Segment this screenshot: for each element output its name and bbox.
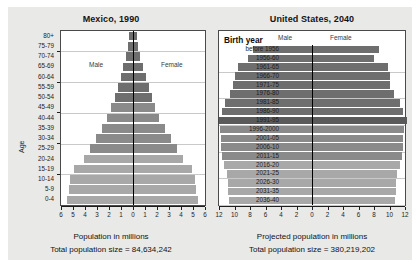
x-tick-mark bbox=[61, 207, 62, 210]
bar-male bbox=[96, 134, 133, 143]
x-tick-mark bbox=[297, 207, 298, 210]
bar-female bbox=[133, 124, 165, 133]
bar-female bbox=[312, 63, 388, 70]
x-tick-mark bbox=[235, 207, 236, 210]
x-tick-mark bbox=[405, 207, 406, 210]
bar-female bbox=[312, 55, 374, 62]
x-tick-label: 4 bbox=[336, 211, 350, 218]
bar-female bbox=[312, 90, 394, 97]
y-tick-label: 60-64 bbox=[10, 74, 54, 80]
bar-male bbox=[102, 124, 133, 133]
bar-female bbox=[312, 197, 395, 204]
bar-female bbox=[312, 188, 396, 195]
x-tick-label: 6 bbox=[352, 211, 366, 218]
y-tick-mark bbox=[57, 51, 60, 52]
y-tick-label: 80+ bbox=[10, 33, 54, 39]
bar-female bbox=[312, 143, 403, 150]
y-tick-label: 25-29 bbox=[10, 145, 54, 151]
y-tick-label: 2021-25 bbox=[217, 170, 279, 176]
y-tick-label: 1956-60 bbox=[217, 55, 279, 61]
y-tick-label: 35-39 bbox=[10, 125, 54, 131]
bar-female bbox=[312, 179, 396, 186]
y-tick-mark bbox=[57, 112, 60, 113]
x-tick-mark bbox=[157, 207, 158, 210]
bar-male bbox=[123, 63, 133, 72]
axis-label-birth-year: Birth year bbox=[224, 35, 263, 45]
chart-united-states-2040: United States, 2040 MaleFemale Birth yea… bbox=[212, 7, 412, 260]
y-tick-label: 1971-75 bbox=[217, 82, 279, 88]
legend-male: Male bbox=[278, 34, 292, 41]
center-axis-line bbox=[133, 31, 134, 205]
x-tick-mark bbox=[250, 207, 251, 210]
bar-female bbox=[312, 152, 402, 159]
bar-female bbox=[133, 165, 192, 174]
y-tick-label: 55-59 bbox=[10, 84, 54, 90]
x-tick-mark bbox=[121, 207, 122, 210]
chart-title-mexico: Mexico, 1990 bbox=[12, 14, 210, 24]
y-tick-label: 2001-05 bbox=[217, 135, 279, 141]
y-tick-label: 50-54 bbox=[10, 94, 54, 100]
bar-female bbox=[312, 170, 397, 177]
bar-female bbox=[133, 93, 152, 102]
x-tick-label: 8 bbox=[367, 211, 381, 218]
bar-female bbox=[133, 103, 155, 112]
x-tick-label: 4 bbox=[274, 211, 288, 218]
bar-female bbox=[133, 175, 195, 184]
x-tick-mark bbox=[266, 207, 267, 210]
y-tick-label: 2006-10 bbox=[217, 144, 279, 150]
bar-male bbox=[69, 185, 133, 194]
bar-female bbox=[312, 99, 400, 106]
y-tick-label: 1991-95 bbox=[217, 117, 279, 123]
y-tick-label: 70-74 bbox=[10, 53, 54, 59]
x-tick-label: 2 bbox=[290, 211, 304, 218]
y-tick-label: 1976-80 bbox=[217, 90, 279, 96]
bar-male bbox=[84, 155, 133, 164]
x-tick-mark bbox=[145, 207, 146, 210]
y-tick-label: 2011-15 bbox=[217, 153, 279, 159]
axis-label-population-mexico: Population in millions bbox=[12, 232, 210, 241]
legend-female: Female bbox=[161, 61, 183, 68]
y-tick-label: 1986-90 bbox=[217, 108, 279, 114]
total-population-mexico: Total population size = 84,634,242 bbox=[12, 245, 210, 254]
y-tick-label: 20-24 bbox=[10, 156, 54, 162]
x-tick-label: 10 bbox=[383, 211, 397, 218]
y-tick-label: 40-44 bbox=[10, 115, 54, 121]
x-tick-mark bbox=[181, 207, 182, 210]
legend-male: Male bbox=[89, 61, 103, 68]
x-tick-label: 8 bbox=[243, 211, 257, 218]
y-tick-label: 1961-65 bbox=[217, 64, 279, 70]
bar-female bbox=[312, 161, 400, 168]
bar-female bbox=[133, 196, 198, 205]
y-tick-label: 45-49 bbox=[10, 104, 54, 110]
bar-male bbox=[74, 165, 133, 174]
x-tick-mark bbox=[359, 207, 360, 210]
x-tick-mark bbox=[390, 207, 391, 210]
y-tick-mark bbox=[57, 174, 60, 175]
bar-male bbox=[115, 93, 133, 102]
bar-female bbox=[312, 46, 379, 53]
y-tick-label: 2026-30 bbox=[217, 179, 279, 185]
x-tick-label: 0 bbox=[305, 211, 319, 218]
x-tick-mark bbox=[328, 207, 329, 210]
plot-area-united-states: MaleFemale Birth year before 19561956-60… bbox=[218, 30, 406, 206]
x-tick-mark bbox=[133, 207, 134, 210]
x-tick-mark bbox=[169, 207, 170, 210]
y-tick-label: before 1956 bbox=[217, 46, 279, 52]
chart-title-united-states: United States, 2040 bbox=[212, 14, 412, 24]
bar-female bbox=[133, 134, 171, 143]
bar-female bbox=[133, 155, 183, 164]
x-tick-mark bbox=[85, 207, 86, 210]
x-tick-mark bbox=[193, 207, 194, 210]
axis-label-projected-population: Projected population in millions bbox=[212, 232, 412, 241]
x-tick-mark bbox=[205, 207, 206, 210]
bar-male bbox=[90, 144, 133, 153]
bar-female bbox=[312, 81, 390, 88]
plot-area-mexico: MaleFemale bbox=[60, 30, 206, 206]
bar-female bbox=[312, 108, 403, 115]
bar-male bbox=[118, 83, 133, 92]
y-tick-label: 1996-2000 bbox=[217, 126, 279, 132]
y-tick-label: 1966-70 bbox=[217, 73, 279, 79]
bar-female bbox=[133, 114, 159, 123]
total-population-united-states: Total population size = 380,219,202 bbox=[212, 245, 412, 254]
population-pyramid-figure: Mexico, 1990 MaleFemale Age 80+75-7970-7… bbox=[0, 0, 420, 267]
